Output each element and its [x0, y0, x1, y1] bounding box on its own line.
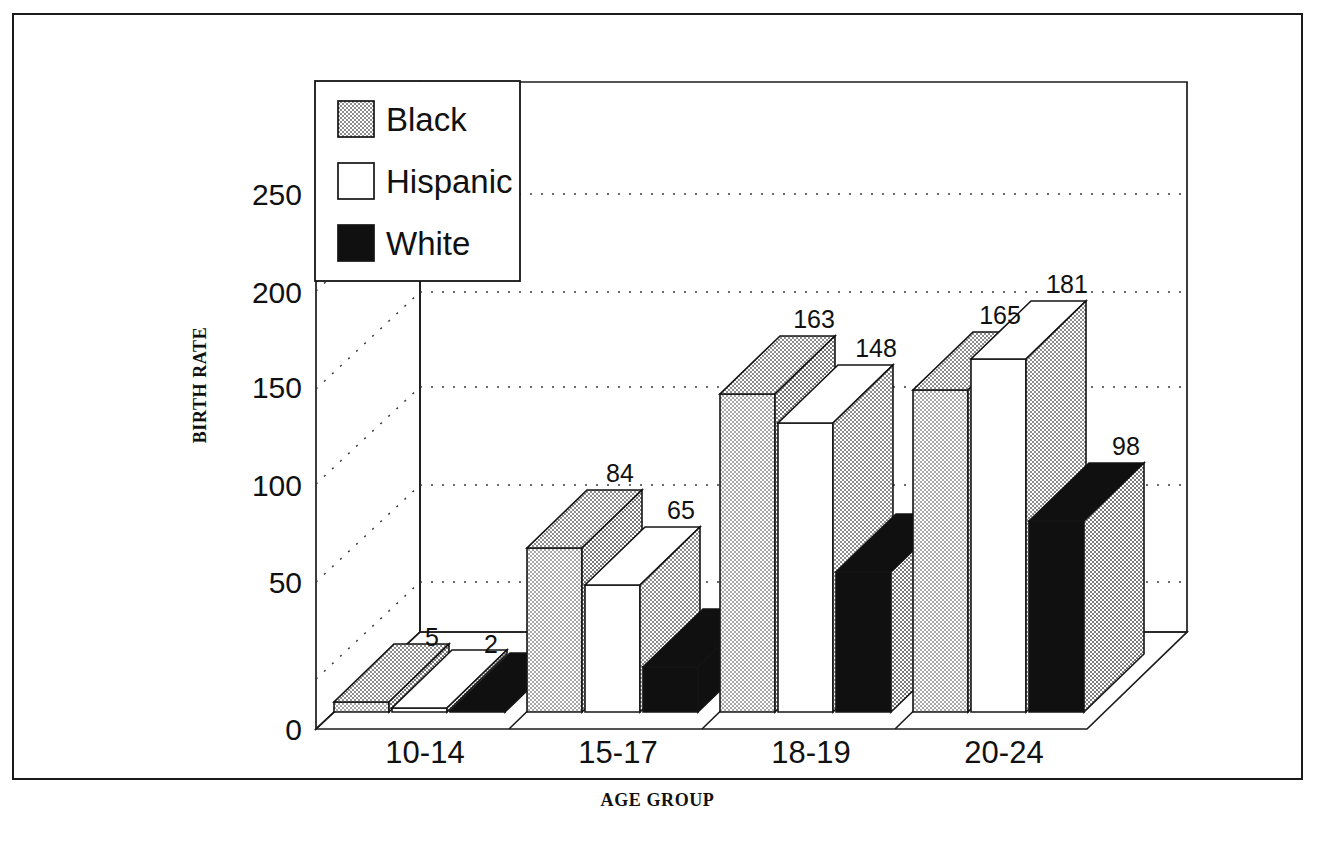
value-label-hispanic-10-14: 2 — [484, 630, 498, 658]
value-label-hispanic-20-24: 181 — [1046, 270, 1088, 298]
x-tick-10-14: 10-14 — [385, 735, 464, 770]
y-axis-tick-labels: 250 200 150 100 50 0 — [252, 178, 302, 746]
bar-front-face — [643, 667, 698, 712]
legend-swatch-white — [338, 225, 374, 261]
legend-swatch-hispanic — [338, 163, 374, 199]
legend-label-black: Black — [386, 101, 467, 138]
legend[interactable]: Black Hispanic White — [315, 81, 520, 281]
bar-front-face — [778, 423, 833, 712]
x-tick-18-19: 18-19 — [771, 735, 850, 770]
value-label-black-15-17: 84 — [606, 459, 634, 487]
birth-rate-3d-bar-chart: 250 200 150 100 50 0 BIRTH RATE — [14, 15, 1301, 778]
bar-front-face — [334, 702, 389, 712]
value-label-white-20-24: 98 — [1112, 432, 1140, 460]
bar-front-face — [585, 585, 640, 712]
legend-label-white: White — [386, 225, 470, 262]
bar-group-20-24: 165 181 98 — [913, 270, 1144, 712]
x-axis-category-labels: 10-14 15-17 18-19 20-24 — [385, 735, 1043, 770]
x-axis-title-text: AGE GROUP — [14, 790, 1301, 811]
y-tick-0: 0 — [285, 713, 302, 746]
legend-swatch-black — [338, 101, 374, 137]
x-tick-15-17: 15-17 — [578, 735, 657, 770]
bar-front-face — [913, 390, 968, 712]
y-tick-100: 100 — [252, 469, 302, 502]
y-tick-150: 150 — [252, 371, 302, 404]
legend-label-hispanic: Hispanic — [386, 163, 513, 200]
value-label-black-20-24: 165 — [979, 301, 1021, 329]
value-label-hispanic-18-19: 148 — [855, 334, 897, 362]
figure-border: 250 200 150 100 50 0 BIRTH RATE — [12, 13, 1303, 780]
y-tick-250: 250 — [252, 178, 302, 211]
bar-front-face — [527, 548, 582, 712]
value-label-black-10-14: 5 — [425, 623, 439, 651]
bar-front-face — [971, 359, 1026, 712]
value-label-hispanic-15-17: 65 — [667, 496, 695, 524]
legend-item-black[interactable]: Black — [338, 101, 467, 138]
legend-item-hispanic[interactable]: Hispanic — [338, 163, 513, 200]
gridline-200-left — [316, 292, 420, 389]
y-tick-200: 200 — [252, 276, 302, 309]
value-label-black-18-19: 163 — [793, 305, 835, 333]
gridline-100-left — [316, 485, 420, 582]
bar-front-face — [720, 394, 775, 712]
x-tick-20-24: 20-24 — [964, 735, 1043, 770]
gridline-150-left — [316, 387, 420, 484]
y-axis-title: BIRTH RATE — [190, 327, 210, 444]
legend-item-white[interactable]: White — [338, 225, 470, 262]
y-tick-50: 50 — [269, 566, 302, 599]
figure-page: 250 200 150 100 50 0 BIRTH RATE — [0, 0, 1327, 846]
bar-front-face — [1029, 521, 1084, 712]
bar-front-face — [836, 572, 891, 712]
